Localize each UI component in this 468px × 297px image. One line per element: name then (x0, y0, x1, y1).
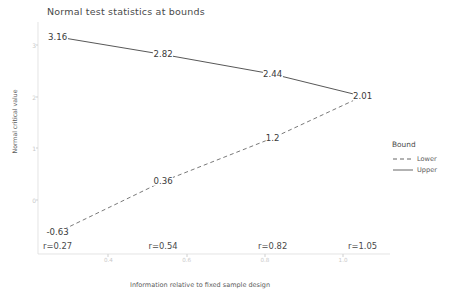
x-point-label: r=0.82 (258, 241, 287, 251)
point-value-label: 1.2 (265, 134, 280, 143)
y-tick-mark (36, 45, 39, 46)
legend-item-lower[interactable]: Lower (392, 153, 466, 164)
x-tick-label: 0.6 (182, 257, 191, 263)
x-tick-mark (108, 254, 109, 257)
point-value-label: 0.36 (153, 177, 173, 186)
legend-item-label: Lower (417, 155, 437, 163)
x-point-label: r=1.05 (348, 241, 377, 251)
series-line-upper (58, 37, 363, 96)
y-tick-mark (36, 199, 39, 200)
point-value-label: 3.16 (47, 33, 67, 42)
plot-lines (38, 22, 390, 254)
legend: Bound LowerUpper (392, 140, 466, 175)
legend-line-icon (392, 165, 414, 175)
y-tick-mark (36, 96, 39, 97)
series-line-lower (58, 96, 363, 232)
y-tick-mark (36, 148, 39, 149)
x-tick-mark (264, 254, 265, 257)
y-axis-label: Normal critical value (11, 82, 18, 162)
x-tick-mark (343, 254, 344, 257)
point-value-label: 2.44 (263, 70, 283, 79)
x-point-label: r=0.54 (149, 241, 178, 251)
legend-item-upper[interactable]: Upper (392, 164, 466, 175)
chart-title: Normal test statistics at bounds (47, 6, 205, 17)
x-tick-mark (186, 254, 187, 257)
chart-container: Normal test statistics at bounds Normal … (0, 0, 468, 297)
legend-line-icon (392, 154, 414, 164)
x-tick-label: 1.0 (339, 257, 348, 263)
x-axis-label: Information relative to fixed sample des… (0, 281, 400, 289)
x-tick-label: 0.8 (260, 257, 269, 263)
point-value-label: -0.63 (46, 228, 69, 237)
legend-item-label: Upper (417, 166, 437, 174)
plot-area: 01230.40.60.81.03.162.822.442.01-0.630.3… (38, 22, 390, 254)
x-tick-label: 0.4 (104, 257, 113, 263)
legend-title: Bound (392, 140, 466, 149)
x-point-label: r=0.27 (43, 241, 72, 251)
point-value-label: 2.82 (153, 50, 173, 59)
point-value-label: 2.01 (353, 92, 373, 101)
